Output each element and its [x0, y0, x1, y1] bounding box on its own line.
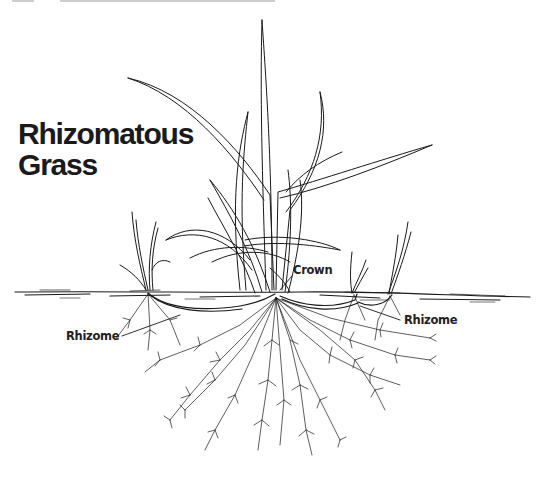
title-line-2: Grass	[18, 149, 193, 180]
figure-title: Rhizomatous Grass	[18, 118, 193, 180]
label-crown: Crown	[293, 263, 332, 277]
title-line-1: Rhizomatous	[18, 118, 193, 149]
fibrous-roots	[115, 294, 436, 455]
label-rhizome-left: Rhizome	[66, 329, 119, 343]
rhizomatous-grass-illustration	[0, 0, 546, 486]
label-rhizome-right: Rhizome	[404, 313, 457, 327]
figure-page: Rhizomatous Grass Crown Rhizome Rhizome	[0, 0, 546, 486]
